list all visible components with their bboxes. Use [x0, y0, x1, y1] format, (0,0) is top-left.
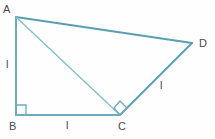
segment-cd: [120, 43, 192, 115]
side-label-bc: l: [66, 120, 68, 131]
geometry-canvas: [0, 0, 215, 139]
vertex-label-a: A: [3, 4, 10, 15]
right-angle-marker-c: [114, 101, 127, 115]
geometry-figure: A B C D l l l: [0, 0, 215, 139]
vertex-label-b: B: [9, 121, 16, 132]
side-label-ab: l: [6, 59, 8, 70]
side-label-cd: l: [160, 80, 162, 91]
vertex-label-c: C: [118, 121, 126, 132]
segment-ad: [16, 17, 192, 43]
segment-ac-diagonal: [16, 17, 120, 115]
vertex-label-d: D: [199, 38, 207, 49]
right-angle-marker-b: [16, 105, 26, 115]
